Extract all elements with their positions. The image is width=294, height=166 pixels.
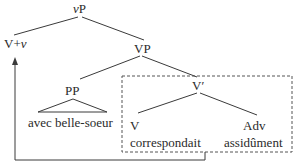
branch-vp-vp [82, 17, 144, 40]
branch-vp-pp [80, 56, 140, 79]
branch-vbar-v [138, 93, 197, 113]
terminal-v: correspondait [130, 136, 201, 149]
terminal-pp: avec belle-soeur [28, 116, 113, 129]
branch-vbar-adv [200, 93, 257, 115]
node-adv: Adv [243, 119, 265, 132]
node-v: V [130, 119, 139, 132]
node-vp: VP [134, 42, 151, 55]
node-pp: PP [65, 84, 79, 97]
branch-vp-head [14, 17, 78, 35]
node-vbar: V′ [192, 79, 204, 92]
terminal-adv: assidûment [224, 136, 283, 149]
branch-vp-vbar [142, 56, 197, 77]
node-vp-root: vP [73, 2, 86, 15]
pp-triangle [38, 99, 107, 112]
arrowhead-icon [12, 57, 18, 65]
node-head: V+v [4, 37, 27, 50]
